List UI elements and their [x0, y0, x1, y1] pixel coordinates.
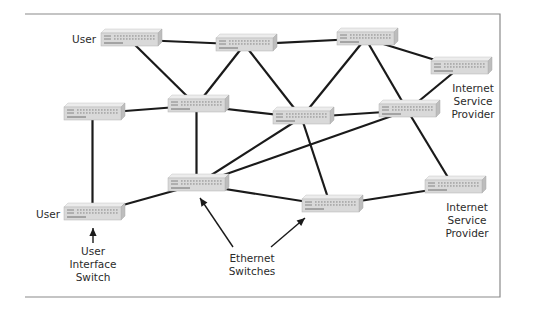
- link-s8-s12: [408, 111, 454, 187]
- arrowhead-icon: [89, 228, 96, 236]
- network-links: [93, 39, 460, 214]
- label-isp-top: Internet Service Provider: [438, 82, 508, 121]
- ethernet-switch-icon-s3: [337, 28, 398, 45]
- ethernet-switch-icon-s7: [273, 107, 334, 124]
- label-ethernet-switches: Ethernet Switches: [217, 252, 287, 278]
- label-user-bottom: User: [24, 208, 60, 221]
- label-user-interface-switch: User Interface Switch: [58, 245, 128, 284]
- ethernet-switch-icon-s6: [168, 95, 229, 112]
- ethernet-switch-icon-s5: [64, 103, 125, 120]
- arrow-ethernet-switches-left: [200, 198, 233, 247]
- link-s2-s7: [245, 45, 302, 118]
- ethernet-switch-icon-s12: [425, 176, 486, 193]
- ethernet-switch-icon-s9: [168, 174, 229, 191]
- ethernet-switch-icon-s4: [431, 57, 492, 74]
- ethernet-switch-icon-s10: [64, 203, 125, 220]
- ethernet-switch-icon-s2: [216, 34, 277, 51]
- link-s7-s11: [302, 118, 331, 206]
- label-user-top: User: [60, 33, 96, 46]
- arrowhead-icon: [200, 198, 207, 207]
- ethernet-switch-icon-s1: [101, 29, 162, 46]
- ethernet-switch-icon-s11: [302, 195, 363, 212]
- link-s3-s7: [302, 39, 366, 118]
- label-isp-bottom: Internet Service Provider: [432, 201, 502, 240]
- ethernet-switch-icon-s8: [379, 100, 440, 117]
